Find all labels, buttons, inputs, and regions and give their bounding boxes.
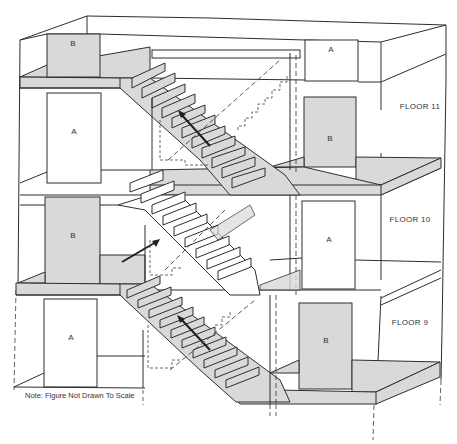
door-label: B: [323, 336, 328, 345]
door-b-f10: [45, 197, 100, 284]
door-label: B: [70, 39, 75, 48]
stair-flight-lower: [120, 276, 290, 405]
floor-label: FLOOR 9: [392, 318, 429, 327]
floor-label: FLOOR 10: [389, 215, 430, 224]
door-label: A: [328, 45, 334, 54]
door-a-f11: [47, 93, 101, 183]
door-b-f11: [304, 97, 356, 167]
door-label: A: [326, 235, 332, 244]
door-label: A: [71, 127, 77, 136]
door-label: B: [70, 231, 75, 240]
door-a-f10: [302, 201, 355, 289]
door-label: A: [68, 333, 74, 342]
floor-label: FLOOR 11: [400, 102, 441, 111]
top-level: B A: [20, 34, 381, 88]
door-a-f9: [44, 299, 97, 387]
scale-note: Note: Figure Not Drawn To Scale: [25, 391, 135, 400]
door-b-f9: [299, 303, 352, 389]
stairwell-diagram: B A A B FLOOR 11: [0, 0, 457, 444]
door-label: B: [327, 134, 332, 143]
